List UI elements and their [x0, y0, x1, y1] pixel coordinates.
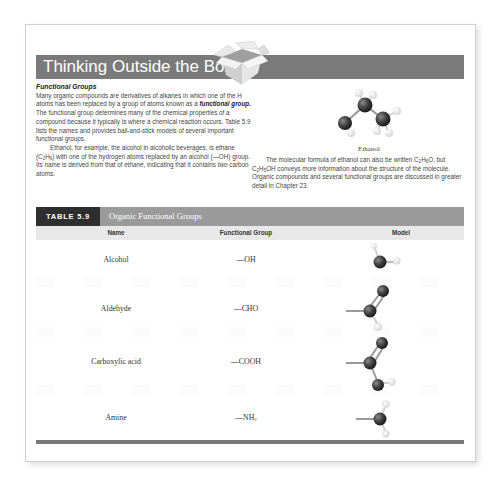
italic-term: ethane [124, 161, 143, 168]
text-run: The functional group determines many of … [36, 109, 250, 142]
carboxylic-acid-model-icon [346, 333, 410, 405]
paragraph-1: Many organic compounds are derivatives o… [36, 92, 254, 144]
open-box-icon [214, 41, 270, 87]
row-name: Amine [76, 413, 156, 422]
column-header-name: Name [76, 226, 156, 240]
key-term: functional group. [199, 100, 250, 107]
text-run: OH conveys more information about the st… [252, 165, 461, 189]
table-number-badge: TABLE 5.9 [36, 207, 100, 226]
paragraph-2: Ethanol, for example, the alcohol in alc… [36, 144, 254, 179]
right-column-text: The molecular formula of ethanol can als… [252, 156, 466, 191]
group-text: —NH [235, 413, 254, 422]
figure-caption: Ethanol [344, 145, 394, 153]
subhead: Functional Groups [36, 83, 254, 92]
row-name: Aldehyde [76, 304, 156, 313]
row-name: Carboxylic acid [66, 357, 166, 366]
text-run: , indicating that it contains [143, 161, 217, 168]
italic-term: two [218, 161, 228, 168]
row-functional-group: —CHO [196, 304, 296, 313]
column-header-functional-group: Functional Group [196, 226, 296, 240]
row-functional-group: —OH [196, 255, 296, 264]
table-bottom-rule [36, 440, 464, 444]
row-functional-group: —NH2 [196, 413, 296, 422]
aldehyde-model-icon [346, 279, 406, 337]
paragraph-3: The molecular formula of ethanol can als… [252, 156, 466, 191]
amine-model-icon [356, 399, 406, 439]
table-title-bar: TABLE 5.9 Organic Functional Groups [36, 207, 464, 226]
table-column-headers: Name Functional Group Model [36, 226, 464, 240]
textbook-page: Thinking Outside the Box Functional Grou… [25, 24, 476, 462]
table-title: Organic Functional Groups [109, 207, 202, 226]
text-run: The molecular formula of ethanol can als… [266, 156, 419, 163]
subscript: 2 [254, 417, 257, 422]
left-column-text: Functional Groups Many organic compounds… [36, 83, 254, 179]
row-functional-group: —COOH [196, 357, 296, 366]
row-name: Alcohol [76, 255, 156, 264]
ethanol-molecule-icon [331, 85, 411, 143]
column-header-model: Model [366, 226, 436, 240]
banner-title: Thinking Outside the Box [43, 56, 233, 78]
alcohol-model-icon [370, 242, 406, 274]
